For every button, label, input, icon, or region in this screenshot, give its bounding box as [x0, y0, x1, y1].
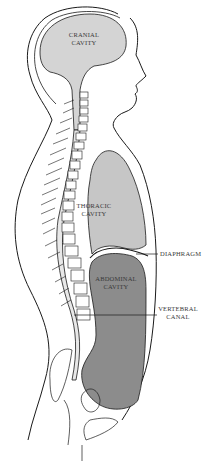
cranial-label-line2: CAVITY [72, 39, 97, 46]
abdominal-label-line2: CAVITY [104, 283, 129, 290]
body-cavities-diagram: CRANIAL CAVITY THORACIC CAVITY ABDOMINAL… [0, 0, 208, 461]
thoracic-label-line2: CAVITY [82, 210, 107, 217]
abdominal-label-line1: ABDOMINAL [95, 275, 137, 282]
vertebral-label-line2: CANAL [166, 313, 189, 320]
vertebral-label-line1: VERTEBRAL [158, 305, 198, 312]
cranial-label-line1: CRANIAL [69, 31, 99, 38]
thoracic-label-line1: THORACIC [77, 202, 112, 209]
diaphragm-label: DIAPHRAGM [160, 250, 201, 257]
